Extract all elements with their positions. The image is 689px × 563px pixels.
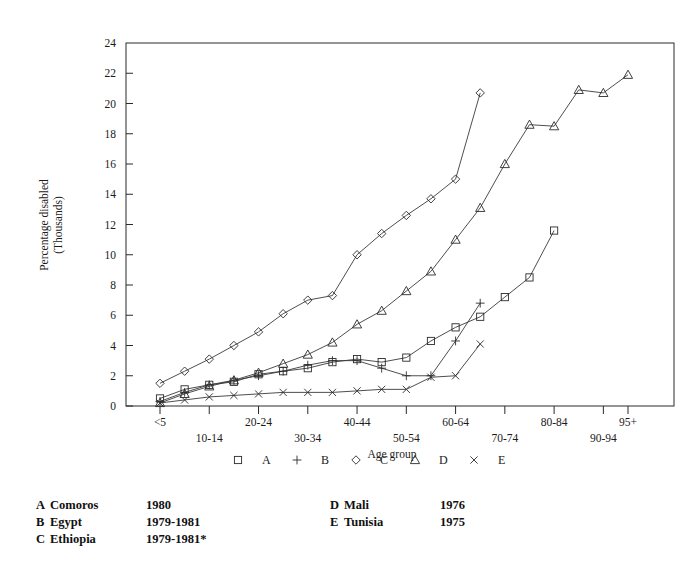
marker-plus [402, 371, 411, 380]
y-axis-title-line1: Percentage disabled [38, 179, 51, 271]
key-country: Mali [344, 498, 440, 515]
series-line-D [160, 75, 628, 403]
y-axis-title-line2: (Thousands) [52, 196, 65, 254]
x-tick-label: 70-74 [491, 432, 518, 444]
y-tick-label: 4 [110, 340, 116, 352]
marker-triangle [574, 85, 583, 93]
y-tick-label: 20 [105, 98, 117, 110]
key-letter: A [36, 498, 50, 515]
y-tick-label: 16 [105, 158, 117, 170]
legend-label-D: D [439, 453, 448, 467]
key-year: 1979-1981 [146, 515, 206, 532]
plot-axes [126, 43, 674, 406]
marker-plus [293, 456, 302, 465]
key-letter: D [330, 498, 344, 515]
legend-label-A: A [262, 453, 271, 467]
x-tick-label: 95+ [619, 416, 637, 428]
legend-label-E: E [498, 453, 505, 467]
y-tick-label: 6 [110, 309, 116, 321]
figure-container: 024681012141618202224 <510-1420-2430-344… [0, 0, 689, 563]
marker-plus [279, 367, 288, 376]
plot-series-group [155, 70, 632, 406]
marker-triangle [525, 120, 534, 128]
key-row: DMali1976 [330, 498, 465, 515]
key-table-right: DMali1976ETunisia1975 [330, 498, 465, 532]
x-tick-label: 60-64 [442, 416, 469, 428]
x-tick-label: 80-84 [541, 416, 568, 428]
key-country: Tunisia [344, 515, 440, 532]
marker-plus [328, 356, 337, 365]
y-tick-label: 8 [110, 279, 116, 291]
marker-plus [377, 364, 386, 373]
key-country: Ethiopia [50, 532, 146, 549]
x-tick-label: 90-94 [590, 432, 617, 444]
key-row: ETunisia1975 [330, 515, 465, 532]
key-country: Comoros [50, 498, 146, 515]
x-tick-label: 20-24 [245, 416, 272, 428]
key-letter: B [36, 515, 50, 532]
y-tick-label: 24 [105, 37, 117, 49]
y-tick-label: 14 [105, 188, 117, 200]
y-tick-label: 0 [110, 400, 116, 412]
y-tick-label: 2 [110, 370, 116, 382]
marker-plus [476, 299, 485, 308]
marker-cross [477, 340, 484, 347]
y-tick-label: 22 [105, 67, 117, 79]
x-tick-label: <5 [154, 416, 166, 428]
series-A [156, 227, 557, 402]
country-key-right: DMali1976ETunisia1975 [330, 498, 465, 532]
key-year: 1980 [146, 498, 206, 515]
key-letter: C [36, 532, 50, 549]
x-axis-title: Age group [368, 448, 417, 461]
key-row: AComoros1980 [36, 498, 206, 515]
disability-by-age-line-chart: 024681012141618202224 <510-1420-2430-344… [0, 0, 689, 493]
x-tick-label: 40-44 [344, 416, 371, 428]
x-tick-label: 50-54 [393, 432, 420, 444]
country-key-left: AComoros1980BEgypt1979-1981CEthiopia1979… [36, 498, 206, 549]
marker-triangle [279, 359, 288, 367]
x-tick-label: 10-14 [196, 432, 223, 444]
series-line-C [160, 93, 480, 383]
marker-plus [353, 356, 362, 365]
series-line-A [160, 231, 554, 399]
key-year: 1979-1981* [146, 532, 206, 549]
x-tick-label: 30-34 [294, 432, 321, 444]
key-letter: E [330, 515, 344, 532]
marker-diamond [352, 456, 360, 464]
marker-cross [470, 456, 477, 463]
key-country: Egypt [50, 515, 146, 532]
y-axis-ticks: 024681012141618202224 [105, 37, 134, 412]
legend-label-B: B [321, 453, 329, 467]
series-D [155, 70, 632, 406]
key-year: 1975 [440, 515, 465, 532]
marker-plus [451, 337, 460, 346]
marker-square [234, 456, 241, 463]
plot-frame [126, 43, 674, 406]
key-row: BEgypt1979-1981 [36, 515, 206, 532]
y-tick-label: 18 [105, 128, 117, 140]
series-E [156, 340, 483, 406]
x-axis-ticks: <510-1420-2430-3440-4450-5460-6470-7480-… [154, 406, 637, 444]
y-tick-label: 10 [105, 249, 117, 261]
y-tick-label: 12 [105, 219, 117, 231]
key-year: 1976 [440, 498, 465, 515]
key-table-left: AComoros1980BEgypt1979-1981CEthiopia1979… [36, 498, 206, 549]
key-row: CEthiopia1979-1981* [36, 532, 206, 549]
series-C [156, 89, 485, 388]
